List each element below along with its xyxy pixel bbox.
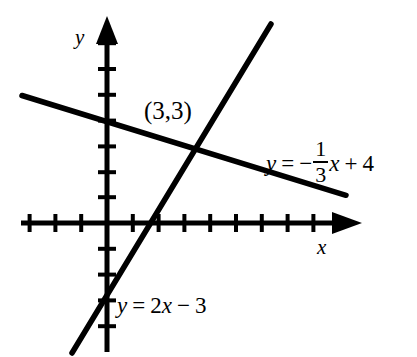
- fraction-numerator: 1: [313, 138, 328, 160]
- fraction-denominator: 3: [313, 164, 328, 186]
- equation-label-steep-line: y = 2 x − 3: [117, 294, 206, 317]
- y-axis-arrowhead: [96, 16, 118, 44]
- equation-coefficient: 2: [150, 294, 162, 317]
- intersection-point-label: (3,3): [144, 98, 192, 123]
- equation-constant: 4: [362, 152, 374, 175]
- equation-variable: x: [162, 294, 172, 317]
- equation-variable: x: [329, 152, 339, 175]
- equation-label-shallow-line: y = − 1 3 x + 4: [266, 139, 374, 188]
- equation-equals-sign: =: [281, 152, 294, 175]
- graph-figure: y x (3,3) y = − 1 3 x + 4 y = 2 x − 3: [0, 0, 417, 357]
- y-axis-label: y: [75, 27, 84, 48]
- x-axis-arrowhead: [332, 212, 362, 234]
- equation-lhs: y: [266, 152, 276, 175]
- equation-constant: 3: [195, 294, 207, 317]
- equation-minus-sign: −: [177, 294, 190, 317]
- x-axis-label: x: [317, 237, 326, 258]
- fraction-one-third: 1 3: [313, 138, 328, 187]
- equation-equals-sign: =: [132, 294, 145, 317]
- equation-lhs: y: [117, 294, 127, 317]
- equation-plus-sign: +: [344, 152, 357, 175]
- equation-minus-sign: −: [299, 152, 312, 175]
